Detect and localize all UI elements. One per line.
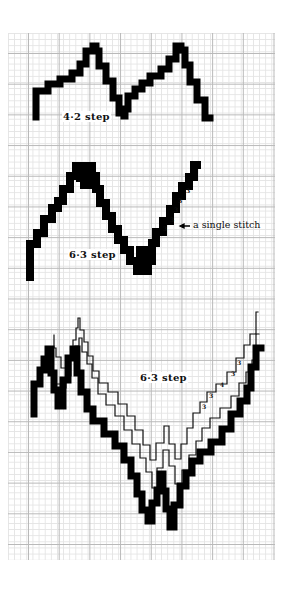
four-two-step-diagram	[36, 46, 210, 118]
step-count-number: 3	[186, 188, 190, 194]
stitch-band-filled	[36, 46, 210, 118]
single-stitch-annotation: a single stitch	[193, 219, 260, 230]
step-count-number: 3	[202, 404, 206, 410]
six-three-step-multi-row-diagram	[34, 312, 261, 527]
diagram-label-six-three-step-multirow: 6·3 step	[139, 372, 188, 383]
step-count-number: 3	[237, 360, 241, 366]
bargello-stitch-diagrams	[0, 0, 293, 594]
step-count-number: 3	[209, 393, 213, 399]
diagram-label-six-three-step: 6·3 step	[68, 249, 117, 260]
step-count-number: 3	[231, 371, 235, 377]
arrow-icon	[180, 224, 190, 228]
stitch-band-outline	[54, 312, 258, 460]
diagram-label-four-two-step: 4·2 step	[62, 111, 111, 122]
step-count-number: 4	[220, 382, 224, 388]
step-count-number: 3	[178, 198, 182, 204]
step-count-number: 3	[174, 207, 178, 213]
step-count-number: 3	[163, 226, 167, 232]
step-count-number: 3	[170, 217, 174, 223]
